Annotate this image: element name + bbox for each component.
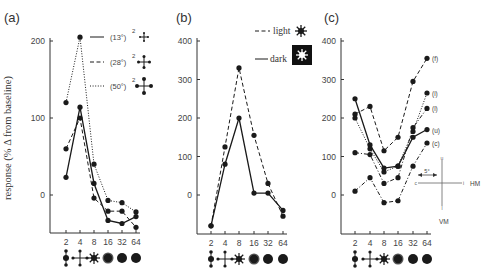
y-tick-label: 300 <box>178 75 192 85</box>
x-tick-label: 64 <box>422 238 432 248</box>
series-label: (u) <box>432 127 440 135</box>
svg-text:c: c <box>415 180 418 186</box>
data-point <box>133 214 138 219</box>
dot-pair-vertical-icon <box>63 249 69 267</box>
data-point <box>395 175 400 180</box>
figure: (a)0100200248163264(b)010020030040024816… <box>0 0 493 279</box>
cross-plus-icon <box>71 249 88 266</box>
data-point <box>63 175 68 180</box>
y-tick-label: 200 <box>322 113 336 123</box>
dot-pair-vertical-icon <box>352 250 358 268</box>
cross-plus-icon <box>361 250 378 267</box>
x-tick-label: 32 <box>263 238 273 248</box>
data-point <box>367 152 372 157</box>
data-point <box>133 225 138 230</box>
blurred-disk-icon <box>103 253 114 264</box>
filled-disk-icon <box>263 254 273 264</box>
data-point <box>352 189 357 194</box>
data-point <box>352 150 357 155</box>
data-point <box>395 164 400 169</box>
svg-text:2: 2 <box>132 77 136 83</box>
data-point <box>424 56 429 61</box>
y-axis-label: response (% Δ from baseline) <box>2 76 13 200</box>
data-point <box>367 175 372 180</box>
data-point <box>119 221 124 226</box>
data-point <box>381 181 386 186</box>
svg-text:l: l <box>441 205 442 211</box>
starburst-icon <box>88 252 100 264</box>
series-label: (f) <box>432 55 438 63</box>
x-tick-label: 4 <box>78 237 83 247</box>
series-dark <box>208 115 285 228</box>
x-tick-label: 16 <box>249 238 259 248</box>
data-point <box>395 198 400 203</box>
legend-a: (13°)2(28°)2(50°)2 <box>90 28 153 95</box>
data-point <box>410 125 415 130</box>
y-tick-label: 100 <box>322 152 336 162</box>
x-tick-label: 32 <box>117 237 127 247</box>
data-point <box>251 133 256 138</box>
data-point <box>424 90 429 95</box>
data-point <box>395 135 400 140</box>
series-label: (l) <box>432 105 438 113</box>
y-tick-label: 0 <box>40 190 45 200</box>
data-point <box>280 208 285 213</box>
large-cross-icon <box>135 77 153 95</box>
data-point <box>133 209 138 214</box>
data-point <box>352 115 357 120</box>
series-label: (c) <box>432 140 440 148</box>
data-point <box>119 200 124 205</box>
data-point <box>91 181 96 186</box>
series-light <box>208 65 285 228</box>
orientation-inset: ucilHMVM5° <box>415 155 481 225</box>
blurred-disk-icon <box>393 254 404 265</box>
data-point <box>424 127 429 132</box>
data-point <box>265 190 270 195</box>
series-50 <box>63 35 138 215</box>
data-point <box>367 142 372 147</box>
filled-disk-icon <box>422 254 432 264</box>
x-tick-label: 16 <box>393 238 403 248</box>
data-point <box>424 140 429 145</box>
data-point <box>381 148 386 153</box>
panel-b: (b)0100200300400248163264 <box>176 10 288 268</box>
svg-text:(28°): (28°) <box>110 58 127 67</box>
data-point <box>381 200 386 205</box>
x-tick-label: 8 <box>237 238 242 248</box>
data-point <box>91 162 96 167</box>
data-point <box>77 35 82 40</box>
series-f: (f) <box>352 55 438 153</box>
panel-title: (c) <box>324 10 339 25</box>
data-point <box>265 181 270 186</box>
y-tick-label: 400 <box>178 36 192 46</box>
y-tick-label: 100 <box>31 113 45 123</box>
starburst-icon <box>233 253 245 265</box>
x-tick-label: 32 <box>408 238 418 248</box>
data-point <box>410 79 415 84</box>
panel-title: (a) <box>4 10 20 25</box>
x-tick-label: 2 <box>209 238 214 248</box>
x-tick-label: 8 <box>92 237 97 247</box>
data-point <box>236 65 241 70</box>
filled-disk-icon <box>408 254 418 264</box>
panel-title: (b) <box>176 10 192 25</box>
data-point <box>251 190 256 195</box>
data-point <box>280 214 285 219</box>
data-point <box>367 104 372 109</box>
x-tick-label: 4 <box>223 238 228 248</box>
starburst-icon <box>378 253 390 265</box>
x-tick-label: 16 <box>103 237 113 247</box>
x-tick-label: 64 <box>131 237 141 247</box>
data-point <box>119 209 124 214</box>
inverted-starburst-icon <box>292 45 312 65</box>
y-tick-label: 200 <box>178 113 192 123</box>
y-tick-label: 0 <box>187 190 192 200</box>
data-point <box>91 195 96 200</box>
dot-pair-vertical-icon <box>208 250 214 268</box>
y-tick-label: 200 <box>31 36 45 46</box>
y-tick-label: 100 <box>178 152 192 162</box>
data-point <box>424 106 429 111</box>
data-point <box>236 115 241 120</box>
data-point <box>105 209 110 214</box>
svg-text:dark: dark <box>270 54 287 64</box>
